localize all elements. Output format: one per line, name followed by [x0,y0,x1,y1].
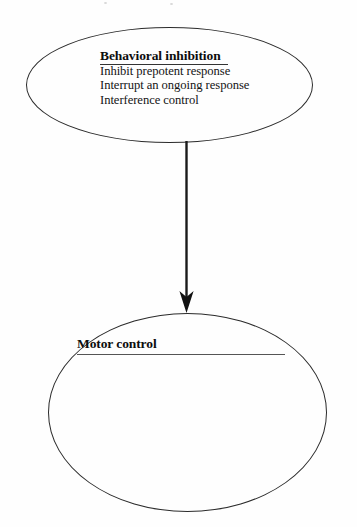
diagram-canvas: Behavioral inhibition Inhibit prepotent … [0,0,357,527]
node-behavioral-inhibition-line-1: Inhibit prepotent response [100,65,249,78]
node-motor-control-text: Motor control [77,337,157,351]
scan-speckle [170,3,173,5]
scan-speckle [104,2,107,4]
arrow-inhibition-to-motor-control [176,141,198,315]
node-behavioral-inhibition-title-underline [100,64,228,65]
node-behavioral-inhibition-line-3: Interference control [100,94,249,107]
node-behavioral-inhibition-text: Behavioral inhibition Inhibit prepotent … [100,49,249,106]
node-behavioral-inhibition-title: Behavioral inhibition [100,49,249,63]
arrow-icon [176,141,198,315]
node-motor-control-title: Motor control [77,337,157,351]
node-motor-control-title-underline [77,354,285,355]
node-behavioral-inhibition-line-2: Interrupt an ongoing response [100,79,249,92]
